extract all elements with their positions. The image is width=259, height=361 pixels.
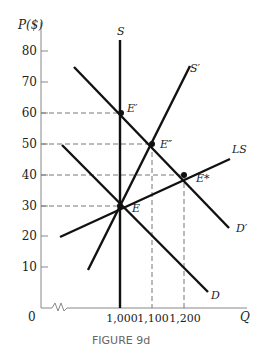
label-e-double-prime: E″: [159, 138, 173, 151]
label-d: D: [210, 289, 220, 302]
svg-text:10: 10: [22, 260, 37, 274]
svg-text:70: 70: [22, 75, 37, 89]
label-e-prime: E′: [126, 102, 138, 115]
svg-text:60: 60: [22, 106, 37, 120]
label-e: E: [131, 202, 140, 215]
point-e-star: [181, 172, 187, 178]
point-e-double-prime: [149, 141, 155, 147]
figure-caption: FIGURE 9d: [92, 334, 150, 347]
curve-d: [62, 145, 208, 292]
svg-text:20: 20: [22, 229, 37, 243]
svg-text:1,200: 1,200: [169, 312, 201, 325]
label-d-prime: D′: [235, 222, 248, 235]
svg-text:1,000: 1,000: [106, 312, 138, 325]
point-e-prime: [118, 110, 124, 116]
svg-text:80: 80: [22, 44, 37, 58]
svg-text:40: 40: [22, 168, 37, 182]
label-e-star: E*: [195, 172, 210, 185]
x-tick-labels: 1,000 1,100 1,200: [106, 312, 201, 325]
label-s: S: [117, 25, 125, 38]
y-axis-label: P($): [17, 18, 43, 32]
label-s-prime: S′: [190, 62, 201, 75]
supply-demand-diagram: P($) Q 0 80 70 60 50 40 30 20 10 1,000 1…: [0, 0, 259, 361]
svg-text:30: 30: [22, 199, 37, 213]
y-ticks: [41, 51, 48, 267]
y-tick-labels: 80 70 60 50 40 30 20 10: [22, 44, 37, 274]
label-ls: LS: [231, 143, 247, 156]
point-e: [117, 203, 123, 209]
x-axis: [41, 303, 247, 311]
svg-text:50: 50: [22, 137, 37, 151]
curve-ls: [60, 159, 230, 237]
x-axis-label: Q: [240, 310, 250, 324]
origin-label: 0: [28, 310, 36, 324]
svg-text:1,100: 1,100: [137, 312, 169, 325]
